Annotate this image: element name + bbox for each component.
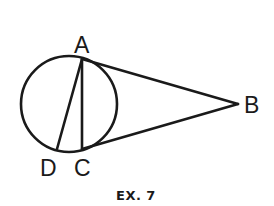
tangent-segment-cb <box>82 104 238 149</box>
geometry-figure: A B D C EX. 7 <box>0 0 274 206</box>
figure-caption: EX. 7 <box>116 188 156 203</box>
chord-ad <box>57 59 82 149</box>
point-label-a: A <box>74 32 90 58</box>
point-label-b: B <box>244 92 259 118</box>
point-label-c: C <box>74 155 91 181</box>
point-label-d: D <box>40 155 57 181</box>
tangent-segment-ab <box>82 59 238 104</box>
